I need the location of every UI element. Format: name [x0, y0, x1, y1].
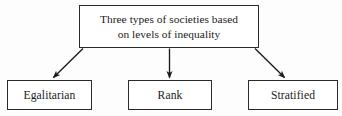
branch-node-egalitarian-label: Egalitarian [24, 89, 76, 102]
branch-node-rank-label: Rank [158, 89, 183, 102]
societies-inequality-diagram: Three types of societies based on levels… [0, 0, 342, 116]
root-node-label: Three types of societies based on levels… [95, 12, 243, 41]
arrow-root-to-stratified [255, 49, 285, 78]
branch-node-egalitarian: Egalitarian [7, 80, 92, 110]
branch-node-rank: Rank [128, 80, 212, 110]
branch-node-stratified-label: Stratified [271, 89, 315, 102]
root-node-label-line-2: on levels of inequality [100, 27, 238, 42]
branch-node-stratified: Stratified [248, 80, 338, 110]
root-node-label-line-1: Three types of societies based [100, 12, 238, 27]
arrow-root-to-egalitarian [54, 49, 84, 78]
root-node-box: Three types of societies based on levels… [79, 5, 259, 48]
